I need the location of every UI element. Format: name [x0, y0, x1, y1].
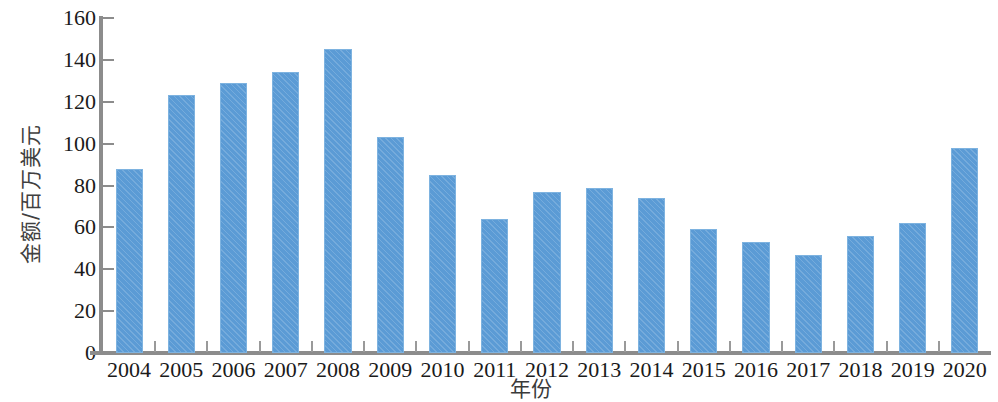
x-axis-tick-mark [154, 341, 156, 352]
x-axis-tick-mark [415, 341, 417, 352]
bar-2005 [168, 95, 195, 353]
x-axis-tick-mark [206, 341, 208, 352]
y-axis-tick-label: 80 [34, 175, 96, 197]
y-axis-tick-label: 160 [34, 7, 96, 29]
x-axis-tick-label: 2016 [730, 357, 782, 383]
y-axis-tick-mark [103, 101, 114, 103]
x-axis-tick-label: 2020 [939, 357, 991, 383]
bar-2016 [742, 242, 769, 353]
x-axis-tick-label: 2006 [207, 357, 259, 383]
bar-2011 [481, 219, 508, 353]
bar-2020 [951, 148, 978, 353]
y-axis-tick-mark [103, 310, 114, 312]
bar-2014 [638, 198, 665, 353]
x-axis-tick-label: 2007 [260, 357, 312, 383]
bar-2013 [586, 188, 613, 353]
y-axis-tick-mark [103, 268, 114, 270]
x-axis-tick-mark [677, 341, 679, 352]
x-axis-tick-mark [520, 341, 522, 352]
x-axis-tick-mark [833, 341, 835, 352]
y-axis-tick-label: 60 [34, 216, 96, 238]
bar-2007 [272, 72, 299, 353]
x-axis-tick-mark [572, 341, 574, 352]
y-axis-tick-label: 140 [34, 49, 96, 71]
bar-2008 [324, 49, 351, 353]
y-axis-tick-mark [103, 226, 114, 228]
bar-2009 [377, 137, 404, 353]
plot-area [103, 18, 991, 353]
bar-2017 [795, 255, 822, 353]
x-axis-tick-label: 2018 [834, 357, 886, 383]
x-axis-tick-mark [468, 341, 470, 352]
x-axis-tick-mark [938, 341, 940, 352]
y-axis-tick-label: 100 [34, 133, 96, 155]
bar-2015 [690, 229, 717, 353]
x-axis-tick-mark [886, 341, 888, 352]
bar-2019 [899, 223, 926, 353]
x-axis-tick-label: 2013 [573, 357, 625, 383]
x-axis-tick-label: 2015 [678, 357, 730, 383]
x-axis-tick-label: 2014 [625, 357, 677, 383]
x-axis-tick-mark [781, 341, 783, 352]
x-axis-tick-label: 2017 [782, 357, 834, 383]
y-axis-tick-mark [103, 185, 114, 187]
x-axis-tick-label: 2019 [887, 357, 939, 383]
y-axis-tick-mark [103, 17, 114, 19]
y-axis-tick-labels: 020406080100120140160 [30, 0, 96, 402]
y-axis-tick-mark [103, 143, 114, 145]
x-axis-tick-label: 2009 [364, 357, 416, 383]
x-axis-tick-mark [624, 341, 626, 352]
x-axis-tick-mark [363, 341, 365, 352]
bar-2006 [220, 83, 247, 353]
x-axis-tick-label: 2008 [312, 357, 364, 383]
bar-2004 [116, 169, 143, 353]
bar-2018 [847, 236, 874, 353]
x-axis-tick-mark [311, 341, 313, 352]
y-axis-tick-label: 40 [34, 258, 96, 280]
x-axis-tick-label: 2004 [103, 357, 155, 383]
x-axis-tick-mark [729, 341, 731, 352]
x-axis-tick-label: 2005 [155, 357, 207, 383]
y-axis-tick-label: 0 [34, 342, 96, 364]
bar-2012 [533, 192, 560, 353]
y-axis-tick-label: 20 [34, 300, 96, 322]
y-axis-tick-mark [103, 59, 114, 61]
x-axis-tick-mark [259, 341, 261, 352]
bar-chart: 金额/百万美元 020406080100120140160 2004200520… [0, 0, 998, 402]
y-axis-tick-label: 120 [34, 91, 96, 113]
bar-2010 [429, 175, 456, 353]
x-axis-tick-label: 2010 [416, 357, 468, 383]
x-axis-title: 年份 [510, 378, 552, 400]
